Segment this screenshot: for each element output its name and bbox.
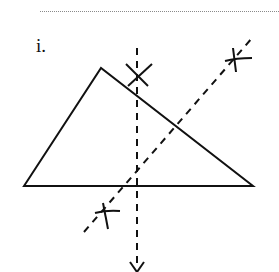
diagonal-bisector — [84, 38, 252, 232]
construction-diagram — [0, 0, 279, 272]
arc-cross-upper-diagonal-icon — [225, 48, 252, 72]
arc-cross-lower-diagonal-icon — [95, 203, 120, 229]
arc-cross-top-icon — [126, 64, 152, 86]
arc-cross-bottom-icon — [130, 262, 144, 272]
